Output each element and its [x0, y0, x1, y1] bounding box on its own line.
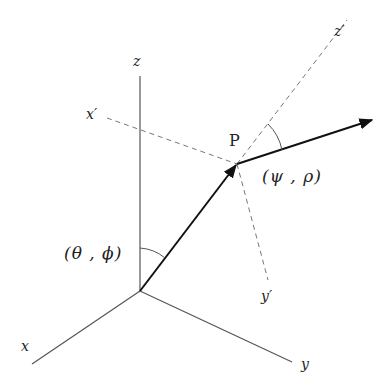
scattered-angles-label: (ψ , ρ) — [262, 168, 322, 185]
diagram-canvas — [0, 0, 382, 382]
theta-angle-arc — [140, 248, 165, 258]
point-p-label: P — [229, 133, 240, 149]
x-prime-axis — [107, 118, 237, 164]
z-axis-label: z — [133, 54, 140, 68]
y-prime-axis-label: y′ — [261, 289, 272, 303]
z-prime-axis — [237, 20, 347, 164]
y-axis-label: y — [301, 357, 309, 371]
incident-vector — [140, 165, 236, 291]
incident-angles-label: (θ , ϕ) — [64, 245, 122, 262]
scattered-vector — [237, 120, 372, 164]
x-axis — [32, 291, 140, 364]
z-prime-axis-label: z′ — [334, 24, 345, 38]
psi-angle-arc — [268, 124, 282, 150]
x-prime-axis-label: x′ — [86, 107, 97, 121]
x-axis-label: x — [21, 339, 29, 353]
